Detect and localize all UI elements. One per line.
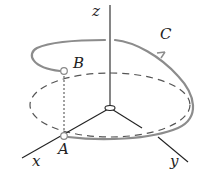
z-axis-label: z <box>92 4 100 19</box>
curve-c-label: C <box>160 27 171 42</box>
point-a-label: A <box>58 142 69 157</box>
point-a-marker <box>61 133 68 140</box>
y-axis-label: y <box>170 154 178 169</box>
diagram-graphic <box>0 0 206 171</box>
origin-marker <box>105 106 115 111</box>
helix-diagram: z C B A x y <box>0 0 206 171</box>
x-axis-label: x <box>32 154 40 169</box>
point-b-label: B <box>73 56 84 71</box>
point-b-marker <box>61 68 68 75</box>
y-axis-line <box>110 108 142 128</box>
helix-curve-c <box>32 40 193 139</box>
